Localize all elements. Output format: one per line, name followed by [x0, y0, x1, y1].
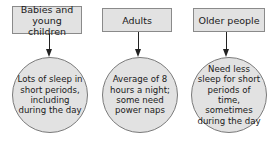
circle-adults: Average of 8 hours a night; some need po… — [102, 57, 178, 133]
circle-older: Need less sleep for short periods of tim… — [191, 57, 267, 133]
label-older: Older people — [198, 15, 259, 26]
arrow-down-icon — [223, 49, 229, 57]
label-adults: Adults — [122, 15, 152, 26]
label-box-babies: Babies and young children — [12, 6, 82, 34]
label-box-older: Older people — [193, 8, 265, 32]
circle-babies: Lots of sleep in short periods, includin… — [12, 57, 88, 133]
description-adults: Average of 8 hours a night; some need po… — [107, 74, 173, 116]
description-older: Need less sleep for short periods of tim… — [196, 64, 262, 126]
arrow-line-older — [226, 32, 227, 49]
label-box-adults: Adults — [102, 8, 172, 32]
label-babies: Babies and young children — [13, 4, 81, 37]
arrow-down-icon — [135, 49, 141, 57]
arrow-line-adults — [138, 32, 139, 49]
description-babies: Lots of sleep in short periods, includin… — [17, 74, 83, 116]
arrow-line-babies — [49, 34, 50, 49]
arrow-down-icon — [46, 49, 52, 57]
